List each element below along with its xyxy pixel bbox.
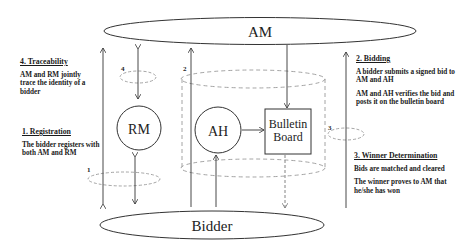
step-4-number: 4: [121, 65, 125, 73]
step-1-ellipse: [88, 172, 160, 186]
bulletin-label-line1: Bulletin: [269, 117, 308, 131]
note-bidding: 2. Bidding A bidder submits a signed bid…: [356, 55, 456, 111]
note-registration: 1. Registration The bidder registers wit…: [22, 128, 102, 163]
note-bidding-text-2: AM and AH verifies the bid and posts it …: [356, 90, 456, 106]
bidder-node: Bidder: [100, 211, 324, 239]
step-1-number: 1: [87, 166, 91, 174]
auction-protocol-diagram: AM Bidder 4 1 2 3 RM AH Bulletin Board: [0, 0, 468, 251]
note-traceability-text: AM and RM jointly trace the identity of …: [20, 71, 98, 96]
bulletin-board-node: Bulletin Board: [265, 109, 311, 154]
note-winner-text-1: Bids are matched and cleared: [354, 165, 464, 173]
note-bidding-heading: 2. Bidding: [356, 55, 456, 63]
ah-node: AH: [195, 107, 241, 153]
bidder-label: Bidder: [192, 218, 233, 234]
step-2-number: 2: [183, 65, 187, 73]
note-winner-determination: 3. Winner Determination Bids are matched…: [354, 152, 464, 200]
note-traceability-heading: 4. Traceability: [20, 58, 98, 66]
note-winner-text-2: The winner proves to AM that he/she has …: [354, 178, 464, 194]
rm-node: RM: [117, 106, 161, 150]
step-3-number: 3: [328, 124, 332, 132]
am-node: AM: [104, 18, 416, 45]
rm-label: RM: [128, 122, 150, 137]
note-traceability: 4. Traceability AM and RM jointly trace …: [20, 58, 98, 101]
note-bidding-text-1: A bidder submits a signed bid to AM and …: [356, 68, 456, 84]
am-label: AM: [248, 24, 272, 40]
note-registration-heading: 1. Registration: [22, 128, 102, 136]
ah-label: AH: [208, 124, 228, 139]
note-winner-heading: 3. Winner Determination: [354, 152, 464, 160]
bulletin-label-line2: Board: [273, 130, 302, 144]
note-registration-text: The bidder registers with both AM and RM: [22, 141, 102, 157]
